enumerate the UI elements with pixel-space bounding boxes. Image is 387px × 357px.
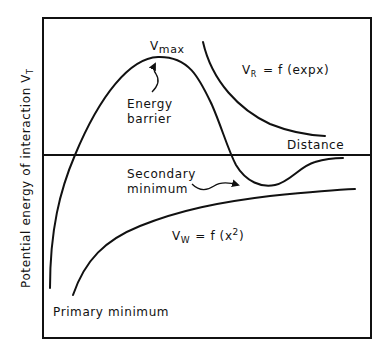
total-interaction-curve bbox=[50, 57, 343, 288]
y-axis-label: Potential energy of interaction VT bbox=[19, 68, 35, 288]
energy-barrier-arrow bbox=[152, 64, 158, 92]
energy-barrier-label-line2: barrier bbox=[127, 112, 171, 126]
energy-barrier-label-line1: Energy bbox=[127, 97, 173, 111]
secondary-minimum-label-line1: Secondary bbox=[127, 167, 196, 181]
vmax-label: Vmax bbox=[150, 39, 185, 56]
repulsive-curve-VR bbox=[203, 42, 325, 136]
secondary-minimum-label-line2: minimum bbox=[127, 182, 188, 196]
vw-label: VW= f (x2) bbox=[172, 227, 244, 245]
primary-minimum-label: Primary minimum bbox=[53, 305, 169, 319]
vr-label: VR= f (expx) bbox=[242, 63, 329, 79]
distance-axis-label: Distance bbox=[287, 138, 344, 152]
secondary-minimum-arrow bbox=[192, 183, 238, 190]
interaction-energy-diagram: Vmax Energy barrier VR= f (expx) Distanc… bbox=[0, 0, 387, 357]
